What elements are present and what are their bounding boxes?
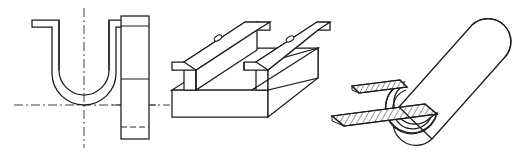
side-view-outline [121, 16, 149, 139]
drawing-sheet: Pipe clamp assembly — four-view technica… [0, 0, 514, 153]
base-front-face [172, 90, 268, 117]
drawing-canvas [0, 0, 514, 153]
